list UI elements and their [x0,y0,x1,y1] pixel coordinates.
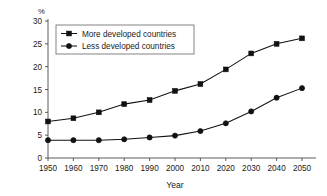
data-point [249,51,254,56]
data-point [299,86,304,91]
y-tick-label: 0 [37,154,42,163]
x-axis-title: Year [166,180,184,190]
data-point [96,110,101,115]
data-point [249,109,254,114]
data-point [147,135,152,140]
y-tick-label: 20 [33,63,43,72]
data-point [122,102,127,107]
chart-figure: %051015202530195019601970198019902000201… [0,0,327,196]
data-point [172,133,177,138]
x-tick-label: 2020 [217,164,236,173]
y-tick-label: 10 [33,108,43,117]
data-point [71,116,76,121]
x-tick-label: 2000 [166,164,185,173]
data-point [223,67,228,72]
legend-label: More developed countries [82,30,176,39]
data-point [274,95,279,100]
x-tick-label: 2010 [191,164,210,173]
chart-legend: More developed countriesLess developed c… [56,25,194,54]
legend-label: Less developed countries [82,42,175,51]
series-line-2 [48,88,302,140]
data-point [45,138,50,143]
x-tick-label: 2050 [293,164,312,173]
data-point [96,138,101,143]
x-tick-label: 2040 [267,164,286,173]
y-tick-label: 5 [37,131,42,140]
x-tick-label: 1970 [90,164,109,173]
y-axis-unit-label: % [38,7,45,16]
data-point [147,98,152,103]
data-point [300,36,305,41]
x-tick-label: 1950 [39,164,58,173]
data-point [46,119,51,124]
data-point [198,82,203,87]
legend-marker-circle [66,43,71,48]
x-tick-label: 1960 [64,164,83,173]
y-tick-label: 30 [33,17,43,26]
data-point [71,138,76,143]
x-tick-label: 1990 [140,164,159,173]
x-tick-label: 2030 [242,164,261,173]
data-point [122,137,127,142]
y-tick-label: 15 [33,86,43,95]
data-point [198,128,203,133]
line-chart: %051015202530195019601970198019902000201… [0,0,327,196]
legend-marker-square [67,31,72,36]
y-tick-label: 25 [33,40,43,49]
data-point [223,121,228,126]
data-point [274,41,279,46]
x-tick-label: 1980 [115,164,134,173]
series-2 [45,86,304,143]
data-point [173,88,178,93]
